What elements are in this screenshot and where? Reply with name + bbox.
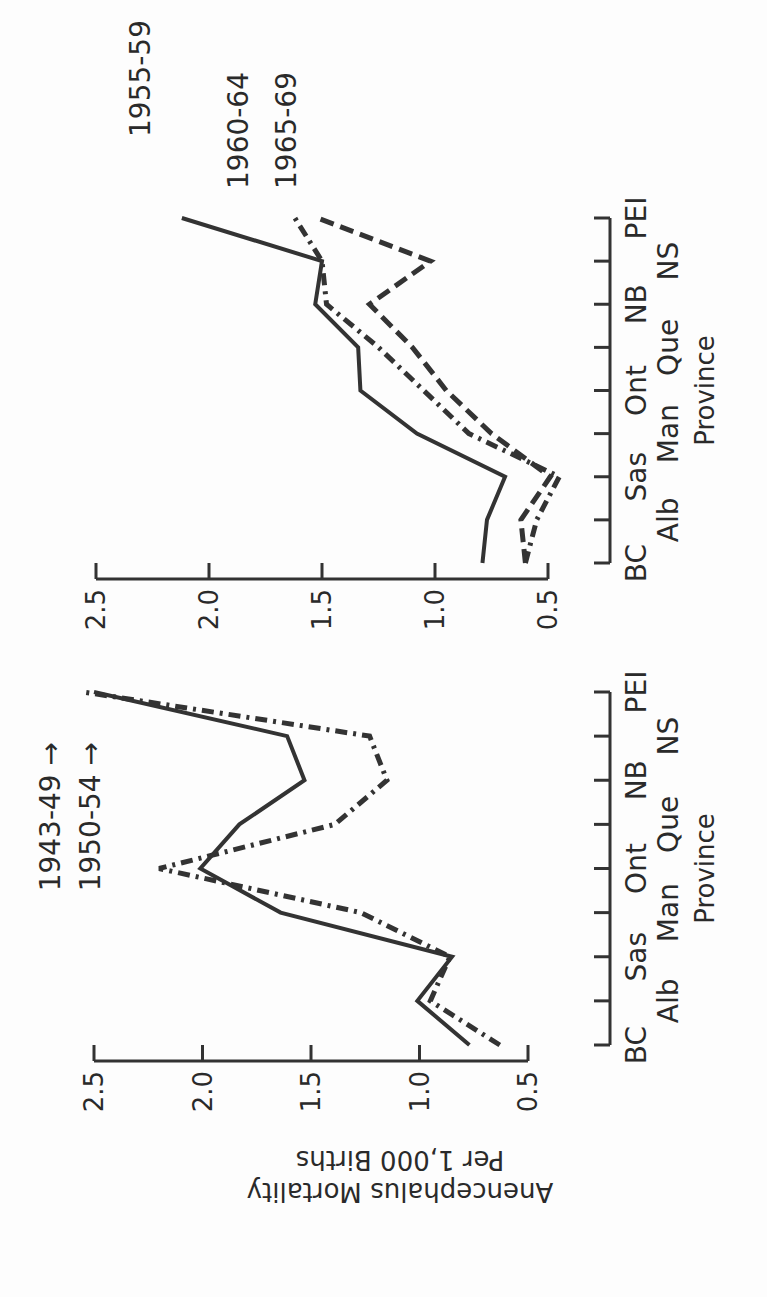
series-label: 1965-69 [270, 72, 303, 189]
province-label: PEI [620, 671, 653, 714]
series-line-1950-54 [94, 692, 469, 1045]
series-line-1955-59 [182, 218, 505, 563]
y-axis-title-line2: Per 1,000 Births [296, 1145, 504, 1175]
y-tick-label: 1.5 [307, 589, 337, 630]
chart-canvas: Anencephalus Mortality Per 1,000 Births … [0, 0, 767, 1297]
province-label: Que [652, 796, 685, 853]
y-axis-title: Anencephalus Mortality Per 1,000 Births [247, 1145, 554, 1207]
series-label: 1943-49 → [34, 742, 67, 891]
y-axis-title-line1: Anencephalus Mortality [247, 1177, 554, 1207]
y-tick-label: 2.5 [81, 589, 111, 630]
x-axis: BCSasOntNBPEIAlbManQueNSProvince [594, 671, 720, 1065]
x-axis: BCSasOntNBPEIAlbManQueNSProvince [594, 197, 720, 583]
y-tick-label: 2.0 [188, 1071, 218, 1112]
y-tick-label: 1.0 [405, 1071, 435, 1112]
province-label: NS [652, 717, 685, 756]
province-label: Man [652, 883, 685, 942]
x-axis-title: Province [690, 335, 720, 446]
x-axis-title: Province [690, 813, 720, 924]
series-label: 1950-54 → [74, 742, 107, 891]
right-panel-1955-1969: 0.51.01.52.02.5BCSasOntNBPEIAlbManQueNSP… [81, 20, 720, 630]
y-tick-label: 2.0 [194, 589, 224, 630]
series-labels: 1943-49 →1950-54 → [34, 742, 107, 891]
province-label: NB [620, 284, 653, 324]
y-axis: 0.51.01.52.02.5 [79, 1045, 543, 1112]
province-label: Sas [620, 932, 653, 982]
province-label: Man [652, 404, 685, 463]
y-tick-label: 1.5 [296, 1071, 326, 1112]
province-label: PEI [620, 197, 653, 240]
series-line-1965-69 [317, 218, 550, 563]
province-label: BC [620, 1026, 653, 1064]
y-tick-label: 2.5 [79, 1071, 109, 1112]
province-label: NS [652, 242, 685, 281]
left-panel-1943-1954: 0.51.01.52.02.5BCSasOntNBPEIAlbManQueNSP… [34, 671, 720, 1113]
series-labels: 1955-591960-641965-69 [124, 20, 303, 189]
series-label: 1955-59 [124, 20, 157, 137]
y-tick-label: 0.5 [533, 589, 563, 630]
series-line-1960-64 [295, 218, 559, 563]
y-tick-label: 1.0 [420, 589, 450, 630]
province-label: BC [620, 544, 653, 582]
province-label: Alb [652, 979, 685, 1024]
figure: Anencephalus Mortality Per 1,000 Births … [0, 0, 767, 1297]
province-label: Ont [620, 843, 653, 894]
province-label: Que [652, 319, 685, 376]
y-axis: 0.51.01.52.02.5 [81, 563, 563, 630]
province-label: NB [620, 760, 653, 800]
province-label: Alb [652, 498, 685, 543]
province-label: Ont [620, 365, 653, 416]
y-tick-label: 0.5 [513, 1071, 543, 1112]
series-label: 1960-64 [222, 72, 255, 189]
province-label: Sas [620, 452, 653, 502]
